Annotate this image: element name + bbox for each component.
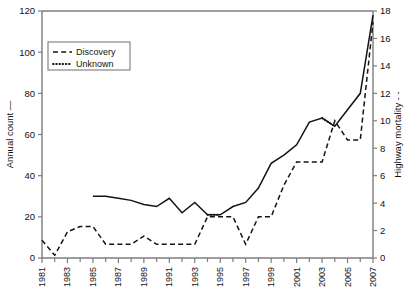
x-tick-label: 1999 <box>266 267 276 287</box>
y-tick-label-right: 18 <box>380 5 391 16</box>
y-tick-label-right: 6 <box>380 170 385 181</box>
y-tick-label-left: 80 <box>24 88 35 99</box>
x-tick-label: 1983 <box>62 267 72 287</box>
y-tick-label-right: 8 <box>380 143 385 154</box>
x-tick-label: 2005 <box>343 267 353 287</box>
y-tick-label-right: 12 <box>380 88 391 99</box>
x-tick-label: 2001 <box>292 267 302 287</box>
y-tick-label-right: 10 <box>380 115 391 126</box>
legend-label-unknown: Unknown <box>76 59 114 69</box>
y-tick-label-right: 16 <box>380 33 391 44</box>
y-tick-label-right: 14 <box>380 60 391 71</box>
x-tick-label: 1987 <box>113 267 123 287</box>
legend-label-discovery: Discovery <box>76 47 116 57</box>
x-tick-label: 1981 <box>37 267 47 287</box>
y-tick-label-left: 100 <box>19 47 35 58</box>
y-axis-title-right: Highway mortality - - <box>392 91 403 178</box>
x-tick-label: 1985 <box>88 267 98 287</box>
y-tick-label-left: 40 <box>24 170 35 181</box>
x-tick-label: 1989 <box>139 267 149 287</box>
y-tick-label-left: 120 <box>19 5 35 16</box>
y-tick-label-right: 4 <box>380 198 385 209</box>
x-tick-label: 1991 <box>164 267 174 287</box>
y-axis-title-left: Annual count — <box>4 100 15 168</box>
x-tick-label: 1995 <box>215 267 225 287</box>
series-line-annual-count <box>93 15 373 215</box>
x-tick-label: 1993 <box>190 267 200 287</box>
y-tick-label-right: 0 <box>380 252 385 263</box>
x-tick-label: 2007 <box>368 267 378 287</box>
chart-container: 0204060801001200246810121416181981198319… <box>0 0 411 300</box>
y-tick-label-right: 2 <box>380 225 385 236</box>
series-segment-unknown <box>322 118 335 126</box>
y-tick-label-left: 20 <box>24 211 35 222</box>
y-tick-label-left: 60 <box>24 129 35 140</box>
x-tick-label: 1997 <box>241 267 251 287</box>
x-tick-label: 2003 <box>317 267 327 287</box>
line-chart: 0204060801001200246810121416181981198319… <box>0 0 411 300</box>
y-tick-label-left: 0 <box>30 252 35 263</box>
